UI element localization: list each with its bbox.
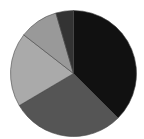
pie-chart [0,0,144,139]
